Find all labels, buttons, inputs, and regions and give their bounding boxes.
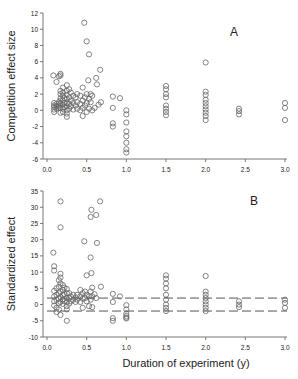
x-tick-label: 2.5: [241, 344, 250, 351]
panel-a-scatter-plot: -6-4-2024681012 0.00.51.01.52.02.53.0 A …: [5, 10, 290, 174]
y-tick-label: 35: [31, 188, 39, 195]
x-axis-title: Duration of experiment (y): [122, 357, 249, 369]
y-tick-label: -10: [29, 334, 39, 341]
data-point: [124, 120, 129, 125]
y-tick-label: 6: [34, 58, 38, 65]
data-point: [64, 318, 69, 323]
panel-b-label: B: [250, 194, 258, 208]
data-point: [94, 82, 99, 87]
panel-b-y-axis: -10-505101520253035: [29, 188, 43, 341]
data-point: [98, 67, 103, 72]
data-point: [110, 124, 115, 129]
x-tick-label: 1.5: [161, 166, 170, 173]
data-point: [82, 239, 87, 244]
x-tick-label: 0.0: [42, 166, 51, 173]
figure: -6-4-2024681012 0.00.51.01.52.02.53.0 A …: [0, 0, 298, 379]
y-tick-label: 2: [34, 91, 38, 98]
x-tick-label: 3.0: [280, 344, 289, 351]
data-point: [282, 300, 287, 305]
data-point: [124, 150, 129, 155]
data-point: [163, 292, 168, 297]
data-point: [98, 284, 103, 289]
x-tick-label: 2.0: [201, 166, 210, 173]
panel-b-y-axis-title: Standardized effect: [5, 217, 17, 312]
data-point: [88, 255, 93, 260]
data-point: [54, 79, 59, 84]
data-point: [51, 73, 56, 78]
data-point: [124, 140, 129, 145]
data-point: [110, 105, 115, 110]
data-point: [84, 39, 89, 44]
data-point: [163, 87, 168, 92]
panel-b-scatter-plot: -10-505101520253035 0.00.51.01.52.02.53.…: [5, 188, 290, 352]
data-point: [117, 96, 122, 101]
data-point: [163, 286, 168, 291]
data-point: [110, 94, 115, 99]
data-point: [80, 85, 85, 90]
y-tick-label: 12: [31, 10, 39, 17]
panel-a-data-points: [51, 20, 288, 155]
data-point: [86, 304, 91, 309]
y-tick-label: 30: [31, 204, 39, 211]
data-point: [203, 92, 208, 97]
y-tick-label: 4: [34, 74, 38, 81]
data-point: [86, 52, 91, 57]
data-point: [163, 281, 168, 286]
data-point: [282, 117, 287, 122]
data-point: [282, 105, 287, 110]
data-point: [64, 114, 69, 119]
panel-a-label: A: [230, 25, 238, 39]
data-point: [51, 250, 56, 255]
y-tick-label: 20: [31, 236, 39, 243]
y-tick-label: 8: [34, 42, 38, 49]
data-point: [98, 199, 103, 204]
x-tick-label: 0.5: [82, 344, 91, 351]
x-tick-label: 1.0: [122, 344, 131, 351]
x-tick-label: 3.0: [280, 166, 289, 173]
y-tick-label: 10: [31, 26, 39, 33]
data-point: [58, 199, 63, 204]
y-tick-label: 0: [34, 301, 38, 308]
x-tick-label: 0.5: [82, 166, 91, 173]
data-point: [94, 212, 99, 217]
x-tick-label: 2.0: [201, 344, 210, 351]
data-point: [94, 240, 99, 245]
data-point: [203, 60, 208, 65]
data-point: [94, 75, 99, 80]
data-point: [163, 276, 168, 281]
y-tick-label: 5: [34, 285, 38, 292]
panel-a-y-axis-title: Competition effect size: [5, 30, 17, 141]
data-point: [110, 291, 115, 296]
panel-b-x-axis: 0.00.51.01.52.02.53.0: [42, 337, 289, 351]
data-point: [80, 113, 85, 118]
data-point: [203, 273, 208, 278]
data-point: [163, 113, 168, 118]
data-point: [124, 134, 129, 139]
x-tick-label: 1.0: [122, 166, 131, 173]
y-tick-label: 25: [31, 220, 39, 227]
y-tick-label: -4: [32, 139, 38, 146]
x-tick-label: 0.0: [42, 344, 51, 351]
panel-a-y-axis: -6-4-2024681012: [31, 10, 43, 163]
data-point: [282, 305, 287, 310]
y-tick-label: -5: [32, 317, 38, 324]
data-point: [236, 112, 241, 117]
data-point: [89, 270, 94, 275]
data-point: [82, 20, 87, 25]
x-tick-label: 2.5: [241, 166, 250, 173]
y-tick-label: -6: [32, 156, 38, 163]
data-point: [58, 312, 63, 317]
y-tick-label: 10: [31, 269, 39, 276]
y-tick-label: 15: [31, 252, 39, 259]
data-point: [58, 225, 63, 230]
data-point: [124, 129, 129, 134]
data-point: [163, 95, 168, 100]
y-tick-label: 0: [34, 107, 38, 114]
x-tick-label: 1.5: [161, 344, 170, 351]
panel-b-data-points: [51, 199, 288, 324]
y-tick-label: -2: [32, 123, 38, 130]
panel-a-x-axis: 0.00.51.01.52.02.53.0: [42, 159, 289, 173]
data-point: [110, 299, 115, 304]
data-point: [88, 214, 93, 219]
data-point: [282, 100, 287, 105]
